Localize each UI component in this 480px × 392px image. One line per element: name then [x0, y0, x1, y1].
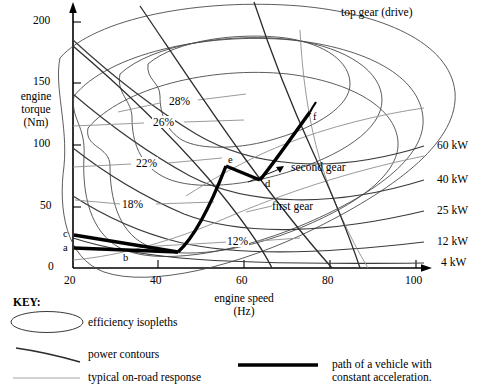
chart-figure: 200 150 100 50 0 20 40 60 80 100 engine …	[0, 0, 480, 392]
efficiency-label-18: 18%	[121, 198, 144, 210]
y-tick-label-50: 50	[40, 199, 52, 211]
efficiency-label-12: 12%	[226, 235, 249, 247]
x-axis-title: engine speed (Hz)	[196, 292, 292, 318]
on-road-response-group	[73, 30, 424, 268]
first-gear-pointer-line	[246, 206, 272, 212]
gear-line-28pct-leader	[118, 103, 160, 112]
y-axis-title-line2: torque	[4, 103, 68, 116]
x-tick-label-80: 80	[322, 274, 334, 286]
annotation-second-gear: second gear	[291, 161, 346, 173]
key-title: KEY:	[13, 296, 41, 308]
isopleth-label-leader-18-right	[156, 202, 214, 204]
point-label-d: d	[265, 178, 270, 189]
x-tick-label-60: 60	[236, 274, 248, 286]
isopleth-label-leader-28-right	[198, 94, 246, 100]
y-tick-label-0: 0	[48, 260, 54, 272]
axes-group	[69, 2, 432, 272]
y-axis-arrowhead	[69, 2, 77, 13]
efficiency-label-26: 26%	[152, 116, 175, 128]
annotation-first-gear: first gear	[272, 200, 313, 212]
point-label-e: e	[228, 154, 233, 165]
isopleth-28	[148, 36, 350, 147]
x-axis-title-line1: engine speed	[196, 292, 292, 305]
y-axis-title-line3: (Nm)	[4, 116, 68, 129]
x-axis-title-line2: (Hz)	[196, 305, 292, 318]
key-item-label-on-road-response: typical on-road response	[88, 371, 201, 384]
key-item-label-efficiency-isopleths: efficiency isopleths	[88, 316, 178, 329]
power-label-4kw: 4 kW	[441, 256, 466, 268]
key-symbol-ellipse	[11, 312, 83, 333]
annotation-top-gear: top gear (drive)	[341, 6, 413, 18]
key-item-label-vehicle-path-line1: path of a vehicle with	[332, 358, 432, 371]
key-symbol-power-curve	[16, 348, 80, 362]
y-axis-title-line1: engine	[4, 90, 68, 103]
x-tick-label-100: 100	[405, 274, 422, 286]
point-label-f: f	[313, 111, 317, 122]
efficiency-label-28: 28%	[168, 95, 191, 107]
vehicle-path-b-e	[178, 166, 226, 252]
isopleth-label-leader-22-right	[168, 158, 222, 163]
key-item-label-vehicle-path-line2: constant acceleration.	[332, 371, 432, 384]
x-axis-arrowhead	[421, 264, 432, 272]
y-tick-label-150: 150	[33, 75, 50, 87]
gear-curve-top	[300, 30, 368, 268]
point-label-a: a	[63, 242, 68, 253]
chart-canvas	[0, 0, 480, 392]
efficiency-isopleths-group	[58, 4, 455, 277]
y-tick-label-200: 200	[33, 14, 50, 26]
x-tick-label-40: 40	[150, 274, 162, 286]
isopleth-label-leader-26-right	[184, 120, 244, 122]
point-label-b: b	[123, 252, 128, 263]
power-label-12kw: 12 kW	[437, 235, 468, 247]
efficiency-label-22: 22%	[135, 157, 158, 169]
point-label-c: c	[63, 228, 68, 239]
gear-line-22pct-leader	[73, 164, 131, 167]
power-label-60kw: 60 kW	[437, 139, 468, 151]
y-axis-title: engine torque (Nm)	[4, 90, 68, 129]
y-tick-label-100: 100	[33, 137, 50, 149]
isopleth-12	[58, 4, 455, 277]
x-tick-label-20: 20	[64, 274, 76, 286]
key-item-label-power-contours: power contours	[88, 348, 159, 361]
power-label-25kw: 25 kW	[437, 204, 468, 216]
power-label-40kw: 40 kW	[437, 173, 468, 185]
